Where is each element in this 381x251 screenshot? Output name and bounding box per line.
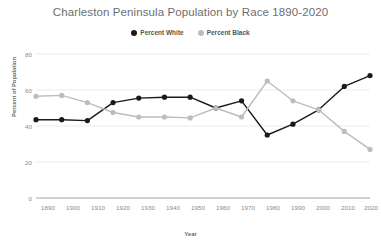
gridlines — [36, 54, 370, 198]
data-point[interactable] — [162, 114, 167, 119]
data-point[interactable] — [188, 95, 193, 100]
data-point[interactable] — [110, 110, 115, 115]
data-point[interactable] — [188, 115, 193, 120]
data-point[interactable] — [342, 84, 347, 89]
series-layer — [33, 73, 372, 152]
plot-area — [0, 0, 381, 251]
data-point[interactable] — [59, 93, 64, 98]
data-point[interactable] — [110, 100, 115, 105]
series-line — [36, 81, 370, 149]
data-point[interactable] — [265, 132, 270, 137]
data-point[interactable] — [316, 107, 321, 112]
data-point[interactable] — [213, 105, 218, 110]
data-point[interactable] — [342, 129, 347, 134]
data-point[interactable] — [265, 78, 270, 83]
data-point[interactable] — [367, 73, 372, 78]
data-point[interactable] — [239, 98, 244, 103]
data-point[interactable] — [59, 117, 64, 122]
data-point[interactable] — [33, 117, 38, 122]
series-percent-black — [33, 78, 372, 152]
data-point[interactable] — [85, 118, 90, 123]
data-point[interactable] — [33, 94, 38, 99]
data-point[interactable] — [239, 114, 244, 119]
series-percent-white — [33, 73, 372, 138]
data-point[interactable] — [290, 98, 295, 103]
data-point[interactable] — [85, 100, 90, 105]
data-point[interactable] — [136, 114, 141, 119]
data-point[interactable] — [162, 95, 167, 100]
data-point[interactable] — [367, 147, 372, 152]
chart-container: Charleston Peninsula Population by Race … — [0, 0, 381, 251]
data-point[interactable] — [290, 122, 295, 127]
data-point[interactable] — [136, 96, 141, 101]
